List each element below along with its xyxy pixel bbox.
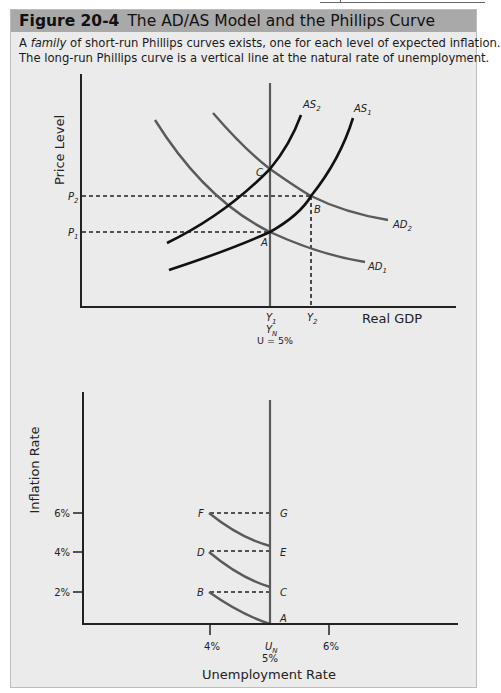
point-e-label: E [280,547,287,558]
srpc-f-e-curve [209,513,270,546]
ad2-curve [213,113,388,220]
point-b-label: B [314,204,321,215]
phillips-curve-chart: 6% 4% 2% 4% 6% UN 5% Inflation Rate Unem… [27,392,458,682]
ad1-curve [155,120,365,262]
point-c-label: C [256,167,263,178]
point-a-label: A [279,613,287,624]
ad1-label: AD1 [367,261,387,275]
y-tick-label-4: 4% [54,547,70,558]
unemployment-rate-axis-label: Unemployment Rate [202,667,336,682]
real-gdp-axis-label: Real GDP [362,311,422,326]
price-level-axis-label: Price Level [52,115,67,185]
as1-label: AS1 [353,103,372,117]
ad2-label: AD2 [392,219,413,233]
srpc-b-a-curve [209,592,270,624]
un-value-label: 5% [262,653,278,664]
x-tick-label-4: 4% [204,641,220,652]
point-f-label: F [198,508,204,519]
y-tick-label-2: 2% [54,587,70,598]
as2-label: AS2 [302,99,321,113]
point-a-label: A [260,237,268,248]
p2-tick-label: P2 [68,191,79,205]
point-c-label: C [280,587,287,598]
point-g-label: G [280,508,288,519]
x-tick-label-6: 6% [323,641,339,652]
point-b-label: B [197,587,204,598]
p1-tick-label: P1 [68,227,79,241]
y2-tick-label: Y2 [307,312,318,326]
y-tick-label-6: 6% [54,508,70,519]
inflation-rate-axis-label: Inflation Rate [27,426,42,513]
u-5-percent-label: U = 5% [257,335,293,346]
ad-as-chart: Price Level Real GDP P2 P1 Y1 YN U = 5% … [52,74,456,346]
point-d-label: D [197,547,205,558]
srpc-d-c-curve [209,552,270,587]
